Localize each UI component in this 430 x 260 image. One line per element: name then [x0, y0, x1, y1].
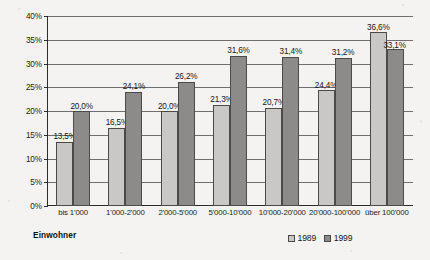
x-tick-label: über 100'000	[365, 208, 408, 217]
bar-group: 24,4%31,2%	[308, 16, 360, 206]
y-tick-label: 0%	[30, 202, 42, 211]
scan-artifact	[402, 4, 404, 6]
y-tick-label: 35%	[26, 35, 42, 44]
x-tick-label: bis 1'000	[58, 208, 88, 217]
bar-1999-1'000-2'000: 24,1%	[125, 92, 142, 206]
legend-item-1999: 1999	[324, 233, 352, 243]
bar-1999-über 100'000: 33,1%	[387, 49, 404, 206]
bar-group: 20,0%26,2%	[152, 16, 204, 206]
bar-1989-5'000-10'000: 21,3%	[213, 105, 230, 206]
scan-artifact	[120, 252, 123, 254]
legend-label-1999: 1999	[334, 233, 353, 243]
bar-value-label: 36,6%	[367, 23, 389, 32]
bar-group: 16,5%24,1%	[99, 16, 151, 206]
x-tick-label: 10'000-20'000	[259, 208, 306, 217]
y-tick-label: 30%	[26, 59, 42, 68]
bar-value-label: 31,4%	[280, 47, 302, 56]
bar-group: 13,5%20,0%	[47, 16, 99, 206]
bar-chart: 0%5%10%15%20%25%30%35%40% 13,5%20,0%16,5…	[0, 0, 430, 260]
bar-1999-2'000-5'000: 26,2%	[178, 82, 195, 206]
chart-legend: 1989 1999	[288, 233, 352, 243]
bar-value-label: 20,0%	[70, 102, 92, 111]
x-tick-label: 5'000-10'000	[209, 208, 252, 217]
y-axis: 0%5%10%15%20%25%30%35%40%	[0, 16, 42, 206]
y-tick-label: 20%	[26, 107, 42, 116]
x-axis-title: Einwohner	[33, 230, 76, 240]
bar-1989-2'000-5'000: 20,0%	[161, 111, 178, 206]
x-tick-label: 20'000-100'000	[309, 208, 360, 217]
bar-1989-bis 1'000: 13,5%	[56, 142, 73, 206]
scan-artifact	[8, 200, 10, 202]
bar-group: 21,3%31,6%	[204, 16, 256, 206]
y-tick-mark	[44, 206, 48, 207]
y-tick-label: 10%	[26, 154, 42, 163]
bar-1989-1'000-2'000: 16,5%	[108, 128, 125, 206]
bar-1999-10'000-20'000: 31,4%	[282, 57, 299, 206]
x-tick-label: 2'000-5'000	[158, 208, 197, 217]
legend-item-1989: 1989	[288, 233, 316, 243]
bar-value-label: 31,2%	[332, 48, 354, 57]
scan-artifact	[18, 8, 21, 10]
bar-value-label: 31,6%	[227, 46, 249, 55]
scan-artifact	[420, 120, 422, 123]
bar-group: 36,6%33,1%	[361, 16, 413, 206]
bar-value-label: 24,1%	[123, 82, 145, 91]
scan-artifact	[350, 250, 352, 252]
legend-label-1989: 1989	[298, 233, 317, 243]
y-tick-label: 25%	[26, 83, 42, 92]
y-tick-label: 5%	[30, 178, 42, 187]
legend-swatch-icon-1989	[288, 235, 295, 242]
x-tick-label: 1'000-2'000	[106, 208, 145, 217]
bar-1999-5'000-10'000: 31,6%	[230, 56, 247, 206]
bar-1989-10'000-20'000: 20,7%	[265, 108, 282, 206]
x-axis: bis 1'0001'000-2'0002'000-5'0005'000-10'…	[47, 208, 413, 220]
bar-group: 20,7%31,4%	[256, 16, 308, 206]
y-tick-label: 15%	[26, 130, 42, 139]
y-tick-label: 40%	[26, 12, 42, 21]
bar-value-label: 33,1%	[383, 41, 405, 50]
bar-value-label: 26,2%	[175, 72, 197, 81]
bar-1989-über 100'000: 36,6%	[370, 32, 387, 206]
bar-1999-20'000-100'000: 31,2%	[335, 58, 352, 206]
bars-layer: 13,5%20,0%16,5%24,1%20,0%26,2%21,3%31,6%…	[47, 16, 413, 206]
bar-1989-20'000-100'000: 24,4%	[318, 90, 335, 206]
legend-swatch-icon-1999	[324, 235, 331, 242]
bar-1999-bis 1'000: 20,0%	[73, 111, 90, 206]
